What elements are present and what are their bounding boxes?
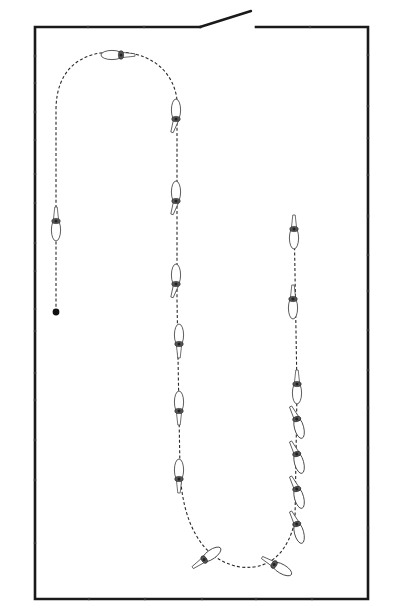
wall-marker-left	[34, 202, 37, 205]
wall-marker-right	[367, 54, 370, 57]
wall-marker-left	[34, 399, 37, 402]
horse-rider-icon	[170, 181, 181, 215]
wall-marker-left	[34, 111, 37, 114]
arena-wall-main	[35, 27, 368, 599]
horse-figures	[51, 50, 306, 578]
gate-door-icon	[200, 11, 251, 27]
horse-rider-icon	[170, 264, 181, 298]
wall-marker-left	[34, 542, 37, 545]
wall-marker-left	[34, 372, 37, 375]
wall-marker-right	[367, 329, 370, 332]
wall-marker-left	[34, 55, 37, 58]
wall-marker-right	[367, 369, 370, 372]
horse-rider-icon	[190, 544, 223, 571]
arena-diagram	[0, 0, 393, 607]
horse-rider-icon	[288, 285, 297, 319]
wall-marker-right	[367, 215, 370, 218]
wall-marker-right	[367, 290, 370, 293]
horse-rider-icon	[288, 439, 306, 475]
horse-rider-icon	[288, 509, 306, 545]
wall-markers	[34, 26, 370, 601]
horse-rider-icon	[289, 215, 298, 249]
wall-marker-left	[34, 330, 37, 333]
arena-walls	[35, 11, 368, 599]
wall-marker-left	[34, 270, 37, 273]
wall-marker-left	[34, 242, 37, 245]
horse-rider-icon	[174, 459, 183, 493]
wall-marker-right	[367, 174, 370, 177]
path-start-leg	[56, 52, 297, 568]
wall-marker-left	[34, 439, 37, 442]
wall-marker-bottom	[201, 598, 204, 601]
wall-marker-right	[367, 527, 370, 530]
horse-rider-icon	[260, 554, 294, 579]
horse-rider-icon	[292, 370, 301, 404]
wall-marker-bottom	[88, 598, 91, 601]
wall-marker-bottom	[311, 598, 314, 601]
wall-marker-right	[367, 105, 370, 108]
horse-rider-icon	[51, 207, 60, 241]
wall-marker-top	[143, 26, 146, 29]
horse-rider-icon	[174, 324, 183, 358]
horse-rider-icon	[174, 391, 183, 425]
wall-marker-bottom	[144, 598, 147, 601]
wall-marker-left	[34, 173, 37, 176]
wall-marker-right	[367, 447, 370, 450]
wall-marker-left	[34, 82, 37, 85]
wall-marker-left	[34, 139, 37, 142]
horse-rider-icon	[288, 474, 306, 510]
wall-marker-right	[367, 407, 370, 410]
wall-marker-bottom	[255, 598, 258, 601]
horse-rider-icon	[101, 50, 135, 59]
wall-marker-left	[34, 479, 37, 482]
horse-rider-icon	[170, 99, 181, 133]
wall-marker-left	[34, 308, 37, 311]
start-point-marker	[53, 309, 60, 316]
wall-marker-right	[367, 254, 370, 257]
wall-marker-right	[367, 137, 370, 140]
wall-marker-right	[367, 487, 370, 490]
wall-marker-top	[87, 26, 90, 29]
wall-marker-top	[309, 26, 312, 29]
